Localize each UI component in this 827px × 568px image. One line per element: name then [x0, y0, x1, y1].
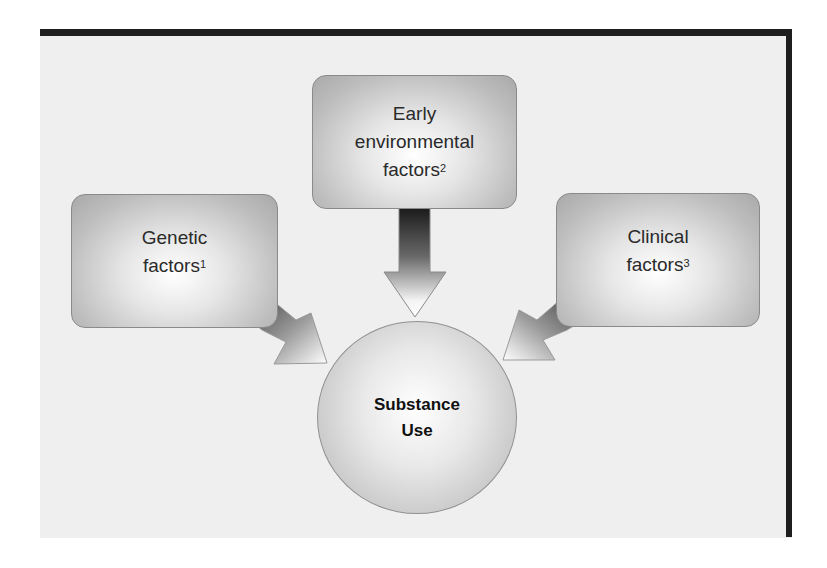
- center-label-line: Substance: [374, 392, 460, 418]
- node-clinical-factors: Clinical factors3: [556, 193, 760, 327]
- node-label-line: factors: [626, 254, 683, 275]
- node-label-line: factors: [383, 159, 440, 180]
- node-label-line: environmental: [355, 128, 474, 156]
- footnote-ref: 1: [200, 258, 206, 270]
- node-substance-use: Substance Use: [317, 321, 517, 514]
- node-genetic-factors: Genetic factors1: [71, 194, 278, 328]
- node-label-line: factors: [143, 255, 200, 276]
- footnote-ref: 3: [683, 257, 689, 269]
- footnote-ref: 2: [440, 162, 446, 174]
- center-label-line: Use: [401, 418, 432, 444]
- arrow-early-to-center: [384, 208, 446, 317]
- node-label-line: Clinical: [626, 223, 689, 251]
- node-label-line: Early: [355, 100, 474, 128]
- node-label-line: Genetic: [142, 224, 207, 252]
- node-early-environmental-factors: Early environmental factors2: [312, 75, 517, 209]
